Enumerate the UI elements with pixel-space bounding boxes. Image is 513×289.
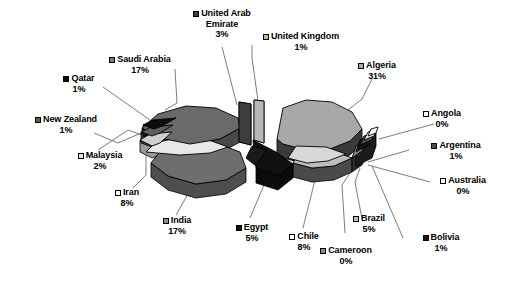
label-iran: Iran 8% — [100, 187, 154, 208]
label-qatar: Qatar 1% — [48, 73, 110, 94]
label-angola-name: Angola — [431, 108, 461, 118]
leader-line-saudi — [165, 69, 177, 110]
label-malaysia: Malaysia 2% — [62, 150, 138, 171]
label-algeria-pct: 31% — [340, 71, 414, 82]
swatch-bolivia — [423, 235, 429, 241]
label-egypt-name: Egypt — [244, 222, 269, 232]
leader-line-uae — [222, 47, 237, 105]
label-chile-name: Chile — [297, 231, 319, 241]
swatch-malaysia — [78, 153, 84, 159]
swatch-egypt — [236, 225, 242, 231]
label-bolivia: Bolivia 1% — [404, 232, 478, 253]
label-united-kingdom: United Kingdom 1% — [246, 31, 356, 52]
label-bolivia-pct: 1% — [404, 243, 478, 254]
swatch-newzealand — [35, 117, 41, 123]
label-australia-name: Australia — [448, 175, 486, 185]
label-brazil-pct: 5% — [338, 224, 400, 235]
leader-line-brazil — [355, 168, 362, 219]
label-saudi-arabia: Saudi Arabia 17% — [92, 54, 188, 75]
label-brazil: Brazil 5% — [338, 213, 400, 234]
label-newzealand-pct: 1% — [16, 125, 116, 136]
leader-line-egypt — [250, 185, 264, 218]
label-uk-name: United Kingdom — [271, 31, 339, 41]
swatch-saudi — [109, 57, 115, 63]
swatch-angola — [423, 111, 429, 117]
swatch-chile — [289, 234, 295, 240]
label-cameroon-pct: 0% — [305, 256, 387, 267]
swatch-algeria — [358, 63, 364, 69]
label-egypt-pct: 5% — [222, 233, 282, 244]
slice-top-uae — [239, 102, 251, 145]
label-india: India 17% — [148, 215, 206, 236]
label-brazil-name: Brazil — [361, 213, 385, 223]
slice-top-uk — [254, 100, 264, 143]
label-india-name: India — [171, 215, 192, 225]
label-india-pct: 17% — [148, 226, 206, 237]
swatch-uae — [193, 11, 199, 17]
label-chile-pct: 8% — [276, 242, 332, 253]
label-uae-name: United Arab — [201, 8, 251, 18]
label-malaysia-pct: 2% — [62, 161, 138, 172]
label-iran-pct: 8% — [100, 198, 154, 209]
label-angola-pct: 0% — [404, 119, 480, 130]
label-algeria-name: Algeria — [366, 60, 396, 70]
label-new-zealand: New Zealand 1% — [16, 114, 116, 135]
label-cameroon-name: Cameroon — [328, 245, 372, 255]
swatch-australia — [440, 178, 446, 184]
swatch-india — [163, 218, 169, 224]
swatch-uk — [263, 34, 269, 40]
label-angola: Angola 0% — [404, 108, 480, 129]
label-algeria: Algeria 31% — [340, 60, 414, 81]
label-argentina: Argentina 1% — [408, 140, 504, 161]
swatch-qatar — [63, 76, 69, 82]
label-egypt: Egypt 5% — [222, 222, 282, 243]
label-argentina-name: Argentina — [439, 140, 480, 150]
label-australia: Australia 0% — [420, 175, 506, 196]
label-argentina-pct: 1% — [408, 151, 504, 162]
leader-line-algeria — [348, 79, 372, 110]
swatch-argentina — [431, 143, 437, 149]
label-australia-pct: 0% — [420, 186, 506, 197]
leader-line-chile — [303, 180, 315, 228]
label-uae-name2: Emirate — [166, 19, 278, 30]
label-saudi-name: Saudi Arabia — [117, 54, 170, 64]
label-bolivia-name: Bolivia — [431, 232, 460, 242]
label-chile: Chile 8% — [276, 231, 332, 252]
swatch-brazil — [353, 216, 359, 222]
label-qatar-pct: 1% — [48, 84, 110, 95]
label-iran-name: Iran — [123, 187, 139, 197]
label-malaysia-name: Malaysia — [86, 150, 123, 160]
leader-line-uk — [252, 45, 258, 101]
swatch-iran — [115, 190, 121, 196]
label-uk-pct: 1% — [246, 42, 356, 53]
pie-chart-figure: United Arab Emirate 3% United Kingdom 1%… — [0, 0, 513, 289]
label-newzealand-name: New Zealand — [43, 114, 97, 124]
label-saudi-pct: 17% — [92, 65, 188, 76]
